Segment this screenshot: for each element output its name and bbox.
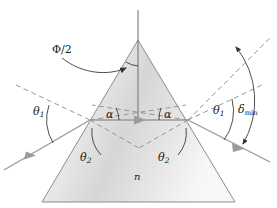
delta-symbol: δ: [238, 103, 245, 116]
prism-refraction-figure: Φ/2 θ1 θ1 δmin α α θ2 θ2 n: [0, 0, 277, 208]
theta1-right-symbol: θ: [213, 104, 220, 117]
phi-leader-line: [62, 58, 126, 73]
label-alpha-right: α: [164, 109, 171, 120]
theta1-left-symbol: θ: [33, 105, 40, 118]
label-theta1-right: θ1: [213, 105, 224, 118]
theta1-left-subscript: 1: [40, 110, 45, 119]
label-theta2-left: θ2: [80, 152, 91, 165]
label-theta1-left: θ1: [33, 106, 44, 119]
theta2-left-symbol: θ: [80, 151, 87, 164]
theta2-right-subscript: 2: [165, 156, 170, 165]
angle-arc-theta1-right: [224, 99, 234, 140]
label-delta-min: δmin: [238, 104, 258, 117]
theta1-right-subscript: 1: [220, 109, 225, 118]
label-theta2-right: θ2: [158, 152, 169, 165]
angle-arc-delta-min: [236, 47, 255, 144]
theta2-right-symbol: θ: [158, 151, 165, 164]
label-refractive-index: n: [134, 172, 140, 182]
delta-subscript: min: [245, 109, 258, 117]
label-alpha-left: α: [106, 109, 113, 120]
undeviated-direction-dashed: [188, 36, 272, 120]
entry-face-normal-dashed: [16, 85, 90, 120]
label-apex-half-angle: Φ/2: [52, 44, 72, 55]
angle-arc-theta1-left: [47, 105, 53, 143]
theta2-left-subscript: 2: [87, 156, 92, 165]
